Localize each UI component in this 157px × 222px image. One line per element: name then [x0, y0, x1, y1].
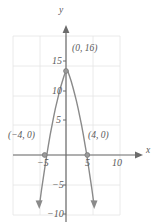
vertex-point-label: (0, 16) [72, 44, 97, 54]
curve-right-arrow [91, 200, 98, 209]
y-axis-arrow [63, 25, 70, 33]
parabola-graph-figure: y x 15 10 5 −5 −10 −5 5 10 (0, 16) (−4, … [0, 0, 157, 222]
right-x-intercept-label: (4, 0) [88, 131, 109, 141]
x-axis [13, 152, 143, 159]
y-tick-label-minus-5: −5 [52, 180, 64, 190]
y-tick-label-5: 5 [56, 115, 61, 125]
graph-canvas [0, 0, 157, 222]
x-tick-label-10: 10 [112, 158, 122, 168]
x-tick-label-minus-5: −5 [37, 158, 49, 168]
y-tick-label-minus-10: −10 [47, 209, 64, 219]
y-axis-label: y [59, 6, 63, 16]
left-x-intercept-label: (−4, 0) [8, 131, 35, 141]
x-tick-label-5: 5 [85, 158, 90, 168]
y-tick-label-15: 15 [52, 56, 62, 66]
y-axis [63, 25, 70, 222]
x-axis-label: x [146, 146, 150, 156]
vertex-point-marker [64, 69, 69, 74]
y-tick-label-10: 10 [52, 86, 62, 96]
curve-left-arrow [36, 200, 43, 209]
parabola-curve [40, 71, 94, 203]
x-axis-arrow [135, 152, 143, 159]
